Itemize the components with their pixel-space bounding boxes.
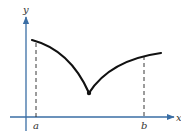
function-graph: y x a b bbox=[0, 0, 181, 136]
interval-label-b: b bbox=[141, 120, 147, 131]
cusp-point bbox=[87, 91, 91, 95]
interval-label-a: a bbox=[33, 120, 39, 131]
y-axis-label: y bbox=[22, 4, 29, 15]
x-axis-label: x bbox=[176, 112, 181, 123]
function-curve bbox=[32, 40, 161, 93]
